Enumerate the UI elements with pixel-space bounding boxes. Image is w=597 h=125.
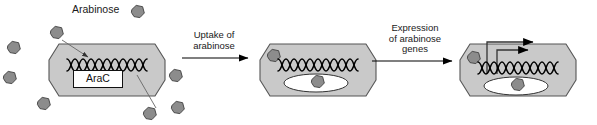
arabinose-molecule [171,101,184,113]
arabinose-legend-marker [131,5,144,17]
arabinose-molecule [37,97,50,109]
figure-canvas: Arabinose Uptake of arabinose Expression… [0,0,597,125]
arabinose-molecule [3,71,16,83]
arac-gene-label: AraC [73,70,123,88]
expression-arrow-label: Expression of arabinose genes [372,23,458,55]
arabinose-legend-label: Arabinose [72,4,119,16]
arabinose-molecule [143,107,156,119]
step-3-group [460,42,576,96]
arabinose-molecule [7,41,20,53]
arabinose-molecule [169,69,182,81]
arabinose-molecule [50,26,63,38]
step-1-group [3,5,184,119]
step-2-group [260,44,376,96]
diagram-svg [0,0,597,125]
uptake-arrow-label: Uptake of arabinose [178,30,250,51]
